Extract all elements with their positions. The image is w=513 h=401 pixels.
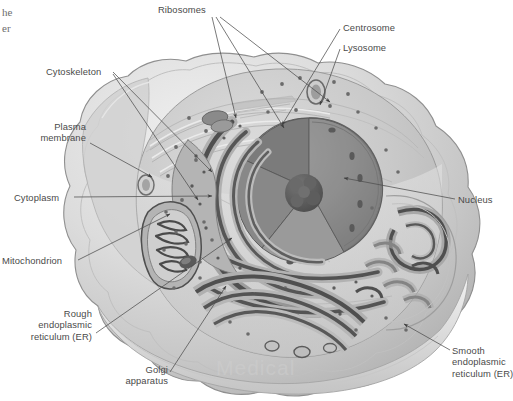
label-golgi-line-1: Golgi (146, 364, 168, 375)
label-cytoplasm: Cytoplasm (14, 192, 59, 203)
label-rough-er-line-3: reticulum (ER) (31, 331, 92, 342)
label-mitochondrion: Mitochondrion (2, 255, 62, 266)
label-rough-er-line-1: Rough (64, 308, 92, 319)
label-smooth-er-line-3: reticulum (ER) (452, 368, 513, 379)
label-lysosome: Lysosome (343, 42, 386, 53)
label-plasma-membrane-line-1: Plasma (54, 121, 86, 132)
vesicle-organelle (138, 175, 154, 195)
label-centrosome: Centrosome (343, 22, 395, 33)
mitochondrion-organelle (141, 202, 201, 289)
label-rough-er: Roughendoplasmicreticulum (ER) (2, 308, 92, 342)
label-nucleus: Nucleus (458, 194, 493, 205)
label-rough-er-line-2: endoplasmic (38, 319, 92, 330)
label-plasma-membrane: Plasmamembrane (3, 121, 86, 144)
lysosome-organelle (307, 80, 325, 104)
label-golgi-apparatus: Golgiapparatus (108, 364, 168, 387)
label-cytoskeleton: Cytoskeleton (46, 66, 101, 77)
label-ribosomes: Ribosomes (158, 4, 206, 15)
nucleolus (285, 174, 323, 212)
label-smooth-er-line-1: Smooth (452, 345, 485, 356)
label-plasma-membrane-line-2: membrane (40, 132, 86, 143)
label-smooth-er-line-2: endoplasmic (452, 356, 506, 367)
label-golgi-line-2: apparatus (125, 375, 168, 386)
label-smooth-er: Smoothendoplasmicreticulum (ER) (452, 345, 513, 379)
